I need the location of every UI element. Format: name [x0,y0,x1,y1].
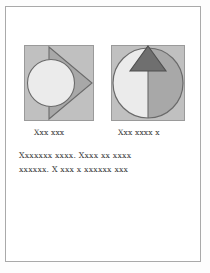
right-figure-graphic [111,45,185,121]
caption-row: Xxx xxx Xxx xxxx x [6,127,200,143]
figure-caption-right: Xxx xxxx x [118,127,160,139]
body-paragraph-line-1: Xxxxxxx xxxx. Xxxx xx xxxx [19,149,191,163]
figure-caption-left: Xxx xxx [34,127,64,139]
left-figure-graphic [24,45,94,121]
circle-and-right-triangle-figure [24,45,94,121]
circle-shape [28,60,75,107]
page-content: Xxx xxx Xxx xxxx x Xxxxxxx xxxx. Xxxx xx… [6,7,200,261]
body-paragraph: Xxxxxxx xxxx. Xxxx xx xxxx xxxxxx. X xxx… [19,149,191,176]
body-paragraph-line-2: xxxxxx. X xxx x xxxxxx xxx [19,163,191,177]
figure-row [6,45,200,125]
split-circle-and-up-triangle-figure [111,45,185,121]
page-background: Xxx xxx Xxx xxxx x Xxxxxxx xxxx. Xxxx xx… [0,0,210,273]
page-frame: Xxx xxx Xxx xxxx x Xxxxxxx xxxx. Xxxx xx… [5,6,201,262]
